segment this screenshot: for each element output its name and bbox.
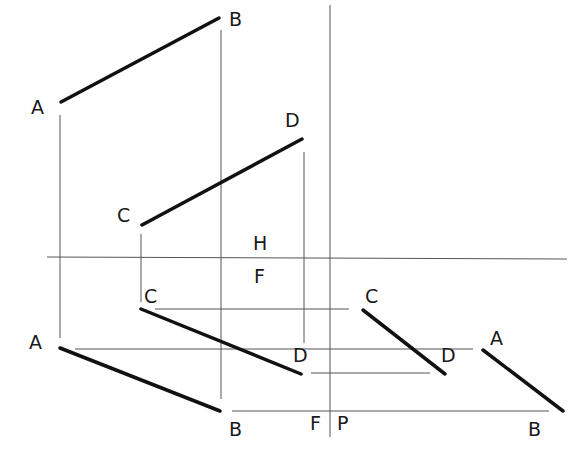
line-cd [142,139,302,225]
point-label-a: A [29,331,42,353]
point-label-a: A [490,327,503,349]
point-label-b: B [229,418,242,440]
line-cd [363,310,445,374]
plane-label-f-top: F [254,265,265,287]
line-ab [61,18,219,102]
top-view: ABCD [31,8,302,226]
plane-labels: HFFP [253,232,348,434]
plane-label-f-bottom: F [310,412,321,434]
plane-label-h: H [253,232,267,254]
point-label-b: B [528,418,541,440]
front-view: CDAB [29,285,308,440]
point-label-d: D [285,109,300,131]
line-ab [483,350,563,411]
point-label-c: C [144,285,157,307]
point-label-d: D [441,344,456,366]
diagram-svg: ABCD CDAB CDAB HFFP [0,0,574,464]
profile-view: CDAB [363,285,563,440]
point-label-c: C [365,285,378,307]
point-label-c: C [117,204,130,226]
folding-line-h-f [47,257,567,259]
point-label-d: D [293,344,308,366]
plane-label-p: P [337,412,348,434]
point-label-a: A [31,96,44,118]
point-label-b: B [229,8,242,30]
orthographic-projection-diagram: ABCD CDAB CDAB HFFP [0,0,574,464]
line-ab [60,348,220,411]
